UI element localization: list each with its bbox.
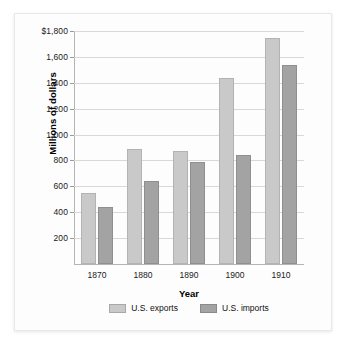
axis-baseline bbox=[74, 264, 304, 265]
x-axis-tick-label: 1910 bbox=[272, 270, 291, 280]
x-axis-tick-label: 1900 bbox=[226, 270, 245, 280]
bar-u-s-exports-1880 bbox=[127, 149, 142, 264]
chart-legend: U.S. exportsU.S. imports bbox=[74, 303, 304, 313]
x-axis-tick-label: 1870 bbox=[88, 270, 107, 280]
y-axis-tick-mark bbox=[70, 83, 74, 84]
y-axis-tick-mark bbox=[70, 186, 74, 187]
bar-u-s-imports-1880 bbox=[144, 181, 159, 264]
bar-u-s-imports-1870 bbox=[98, 207, 113, 264]
bar-u-s-exports-1900 bbox=[219, 78, 234, 264]
legend-label: U.S. imports bbox=[222, 303, 269, 313]
legend-item-exports[interactable]: U.S. exports bbox=[109, 303, 178, 313]
y-axis-tick-label: 400 bbox=[54, 207, 68, 217]
y-axis-tick-mark bbox=[70, 212, 74, 213]
y-axis-tick-mark bbox=[70, 109, 74, 110]
bar-u-s-imports-1910 bbox=[282, 65, 297, 264]
y-axis-tick-mark bbox=[70, 135, 74, 136]
legend-item-imports[interactable]: U.S. imports bbox=[200, 303, 269, 313]
y-axis-tick-label: $1,800 bbox=[41, 26, 68, 36]
y-axis-tick-mark bbox=[70, 31, 74, 32]
x-axis-tick-label: 1880 bbox=[134, 270, 153, 280]
y-axis-tick-mark bbox=[70, 238, 74, 239]
x-axis-title: Year bbox=[74, 288, 304, 299]
bar-u-s-imports-1900 bbox=[236, 155, 251, 264]
legend-swatch-icon bbox=[200, 304, 217, 313]
y-axis-tick-mark bbox=[70, 160, 74, 161]
y-axis-tick-mark bbox=[70, 57, 74, 58]
bar-u-s-exports-1910 bbox=[265, 38, 280, 264]
legend-swatch-icon bbox=[109, 304, 126, 313]
bar-u-s-exports-1890 bbox=[173, 151, 188, 264]
y-axis-title: Millions of dollars bbox=[47, 54, 58, 174]
y-axis-tick-label: 600 bbox=[54, 181, 68, 191]
bar-u-s-imports-1890 bbox=[190, 162, 205, 264]
legend-label: U.S. exports bbox=[131, 303, 178, 313]
y-axis-tick-label: 200 bbox=[54, 233, 68, 243]
gridline bbox=[74, 31, 304, 32]
bar-u-s-exports-1870 bbox=[81, 193, 96, 264]
x-axis-tick-label: 1890 bbox=[180, 270, 199, 280]
y-axis-tick-labels: 2004006008001,0001,2001,4001,600$1,800 bbox=[0, 31, 68, 264]
chart-figure: 2004006008001,0001,2001,4001,600$1,800 M… bbox=[0, 0, 346, 347]
plot-area bbox=[74, 31, 304, 264]
